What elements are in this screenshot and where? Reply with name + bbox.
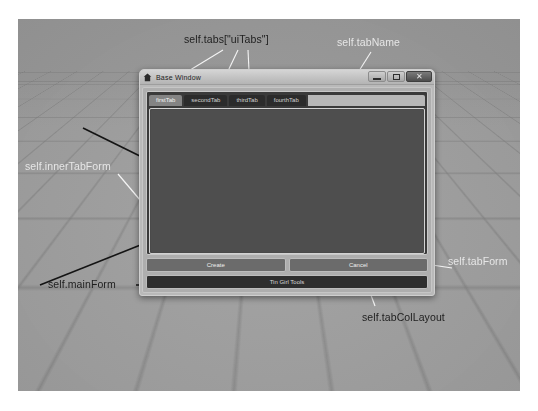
tab-fourth[interactable]: fourthTab [267, 95, 306, 106]
ui-tabs[interactable]: firstTab secondTab thirdTab fourthTab [149, 94, 425, 106]
screenshot-root: Base Window ✕ firstTab [0, 0, 538, 411]
maximize-icon [393, 74, 400, 80]
tab-second-label: secondTab [191, 97, 220, 103]
close-icon: ✕ [416, 73, 423, 81]
inner-tab-form [149, 108, 425, 254]
tab-strip-empty-area [308, 95, 425, 106]
annotation-tab-form: self.tabForm [448, 255, 508, 267]
maximize-button[interactable] [387, 71, 405, 82]
status-bar-text: Tin Girl Tools [270, 279, 305, 285]
annotation-tabs: self.tabs["uiTabs"] [184, 33, 269, 45]
dialog-button-row: Create Cancel [146, 258, 428, 272]
cancel-button-label: Cancel [349, 262, 368, 268]
minimize-button[interactable] [368, 71, 386, 82]
create-button[interactable]: Create [146, 258, 286, 272]
annotation-tab-name: self.tabName [337, 36, 400, 48]
window-controls: ✕ [368, 71, 432, 82]
annotation-inner-tab-form: self.innerTabForm [25, 160, 111, 172]
tab-third[interactable]: thirdTab [229, 95, 264, 106]
tab-first-label: firstTab [156, 97, 175, 103]
tab-fourth-label: fourthTab [274, 97, 299, 103]
home-icon [143, 73, 152, 82]
annotation-main-form: self.mainForm [48, 278, 116, 290]
base-window[interactable]: Base Window ✕ firstTab [139, 69, 435, 296]
tab-first[interactable]: firstTab [149, 95, 182, 106]
status-bar: Tin Girl Tools [146, 275, 428, 289]
window-title: Base Window [156, 74, 201, 81]
cancel-button[interactable]: Cancel [289, 258, 429, 272]
window-titlebar[interactable]: Base Window ✕ [140, 70, 434, 85]
minimize-icon [373, 78, 381, 80]
close-button[interactable]: ✕ [406, 71, 432, 82]
create-button-label: Create [207, 262, 225, 268]
tab-third-label: thirdTab [236, 97, 257, 103]
tab-col-layout [151, 110, 423, 252]
annotation-tab-col-layout: self.tabColLayout [362, 311, 445, 323]
main-form: firstTab secondTab thirdTab fourthTab [142, 87, 432, 293]
tab-second[interactable]: secondTab [184, 95, 227, 106]
tab-form: firstTab secondTab thirdTab fourthTab [146, 91, 428, 255]
